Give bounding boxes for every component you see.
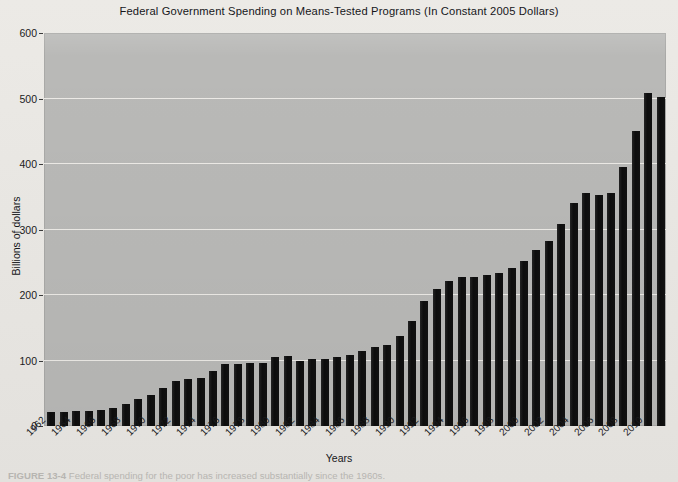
figure-container: Federal Government Spending on Means-Tes… xyxy=(0,0,678,482)
y-tick-mark-300 xyxy=(39,230,43,231)
bar-1976 xyxy=(221,364,229,426)
bar-1989 xyxy=(383,345,391,426)
x-axis-title: Years xyxy=(0,452,678,464)
bar-2010 xyxy=(644,93,652,426)
bar-2000 xyxy=(520,261,528,426)
y-tick-mark-600 xyxy=(39,33,43,34)
bar-1972 xyxy=(172,381,180,426)
figure-caption: FIGURE 13-4 Federal spending for the poo… xyxy=(8,470,668,481)
y-tick-mark-200 xyxy=(39,295,43,296)
figure-caption-text: Federal spending for the poor has increa… xyxy=(69,470,385,481)
bar-1999 xyxy=(508,268,516,426)
y-tick-mark-400 xyxy=(39,164,43,165)
bar-1986 xyxy=(346,355,354,426)
bar-2011 xyxy=(657,97,665,426)
y-axis: 0100200300400500600 xyxy=(0,0,44,482)
y-tick-label-600: 600 xyxy=(3,27,37,39)
gridline-500 xyxy=(44,98,666,99)
bar-2009 xyxy=(632,131,640,426)
bar-1993 xyxy=(433,289,441,426)
bar-2002 xyxy=(545,241,553,426)
bar-1968 xyxy=(122,404,130,426)
bar-1982 xyxy=(296,361,304,427)
figure-caption-label: FIGURE 13-4 xyxy=(8,470,66,481)
bar-1978 xyxy=(246,363,254,426)
plot-area xyxy=(44,33,666,426)
bar-1992 xyxy=(420,301,428,426)
bar-1996 xyxy=(470,277,478,426)
bar-1974 xyxy=(197,378,205,426)
bar-1997 xyxy=(483,275,491,426)
y-tick-mark-100 xyxy=(39,361,43,362)
bar-1990 xyxy=(396,336,404,426)
y-tick-label-500: 500 xyxy=(3,93,37,105)
bar-1998 xyxy=(495,273,503,426)
y-tick-mark-500 xyxy=(39,99,43,100)
bar-2004 xyxy=(570,203,578,426)
gridline-400 xyxy=(44,163,666,164)
bar-1984 xyxy=(321,359,329,426)
bar-1995 xyxy=(458,277,466,426)
bar-2005 xyxy=(582,193,590,426)
bar-1970 xyxy=(147,395,155,426)
bar-1994 xyxy=(445,281,453,426)
bar-1980 xyxy=(271,357,279,426)
bar-2006 xyxy=(595,195,603,426)
bar-2008 xyxy=(619,167,627,426)
bar-1991 xyxy=(408,321,416,426)
bar-2003 xyxy=(557,224,565,426)
chart-title: Federal Government Spending on Means-Tes… xyxy=(0,5,678,17)
bar-2001 xyxy=(532,250,540,426)
bar-1988 xyxy=(371,347,379,426)
y-tick-label-100: 100 xyxy=(3,355,37,367)
y-axis-title: Billions of dollars xyxy=(10,141,22,331)
bar-2007 xyxy=(607,193,615,426)
